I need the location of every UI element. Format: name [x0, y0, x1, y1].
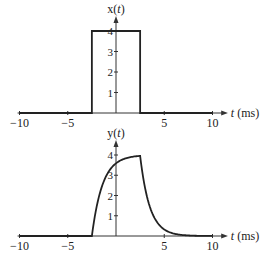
x-tick-label: 10 [207, 116, 219, 130]
x-axis-label: t (ms) [231, 106, 259, 120]
y-axis-label: x(t) [107, 2, 124, 16]
x-axis-label: t (ms) [231, 229, 259, 243]
x-tick-label: −5 [61, 116, 74, 130]
x-axis-arrow-icon [221, 111, 228, 116]
y-axis-arrow-icon [114, 16, 119, 23]
x-axis-arrow-icon [221, 234, 228, 239]
y-axis-arrow-icon [114, 140, 119, 147]
y-tick-label: 2 [108, 190, 114, 202]
x-tick-label: −5 [61, 239, 74, 253]
y-tick-label: 2 [108, 66, 114, 78]
y-tick-label: 1 [108, 87, 114, 99]
x-tick-label: 5 [161, 116, 167, 130]
y-tick-label: 1 [108, 210, 114, 222]
x-tick-label: 5 [161, 239, 167, 253]
y-tick-label: 3 [108, 46, 114, 58]
plot-y: −10−55101234y(t)t (ms) [10, 126, 259, 253]
plot-x: −10−55101234x(t)t (ms) [10, 2, 259, 130]
y-axis-label: y(t) [107, 126, 124, 140]
x-tick-label: −10 [10, 239, 29, 253]
x-tick-label: −10 [10, 116, 29, 130]
chart-figure: −10−55101234x(t)t (ms)−10−55101234y(t)t … [0, 0, 265, 261]
y-tick-label: 4 [108, 149, 114, 161]
x-tick-label: 10 [207, 239, 219, 253]
